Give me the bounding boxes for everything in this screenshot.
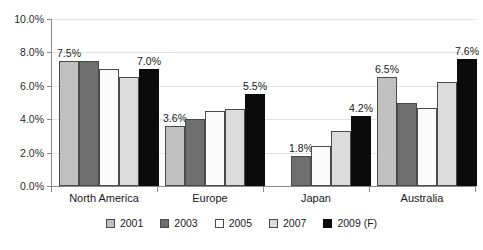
swatch-2001-icon (106, 219, 115, 228)
x-category-label-north-america: North America (51, 192, 157, 205)
bar-value-label: 7.5% (57, 48, 81, 59)
y-tick-label: 0.0% (0, 181, 44, 191)
x-category-label-europe: Europe (157, 192, 263, 205)
bar-australia-2001[interactable]: 6.5% (377, 77, 397, 186)
y-tick-2: 2.0% (0, 148, 44, 158)
y-tick-10: 10.0% (0, 14, 44, 24)
legend: 2001 2003 2005 2007 2009 (F) (0, 218, 483, 229)
bar-japan-2003[interactable]: 1.8% (291, 156, 311, 186)
x-category-label-japan: Japan (263, 192, 369, 205)
bar-europe-2001[interactable]: 3.6% (165, 126, 185, 186)
bar-group-australia: 6.5% 7.6% (377, 19, 483, 186)
bar-group-japan: 1.8% 4.2% (271, 19, 380, 186)
bar-group-europe: 3.6% 5.5% (165, 19, 274, 186)
bar-australia-2005[interactable] (417, 108, 437, 186)
y-tick-label: 8.0% (0, 47, 44, 57)
bar-value-label: 6.5% (375, 64, 399, 75)
bar-europe-2009[interactable]: 5.5% (245, 94, 265, 186)
y-tick-6: 6.0% (0, 81, 44, 91)
legend-item-2007[interactable]: 2007 (269, 218, 306, 229)
bar-north-america-2001[interactable]: 7.5% (59, 61, 79, 186)
bar-north-america-2007[interactable] (119, 77, 139, 186)
y-tick-4: 4.0% (0, 114, 44, 124)
swatch-2003-icon (160, 219, 169, 228)
plot-area: 7.5% 7.0% 3.6% 5.5% (51, 19, 475, 186)
bar-value-label: 1.8% (289, 143, 313, 154)
y-tick-label: 6.0% (0, 81, 44, 91)
bar-north-america-2005[interactable] (99, 69, 119, 186)
bar-australia-2007[interactable] (437, 82, 457, 186)
legend-item-2005[interactable]: 2005 (215, 218, 252, 229)
bar-value-label: 7.6% (455, 46, 479, 57)
bar-value-label: 3.6% (163, 113, 187, 124)
bar-europe-2005[interactable] (205, 111, 225, 186)
bar-group-bars: 1.8% 4.2% (271, 19, 380, 186)
legend-label: 2005 (229, 218, 252, 229)
bar-group-bars: 7.5% 7.0% (59, 19, 168, 186)
legend-label: 2001 (120, 218, 143, 229)
bar-chart: 10.0% 8.0% 6.0% 4.0% 2.0% 0.0% 7.5% (0, 0, 483, 250)
bar-europe-2007[interactable] (225, 109, 245, 186)
bar-value-label: 7.0% (137, 56, 161, 67)
legend-item-2009[interactable]: 2009 (F) (323, 218, 377, 229)
y-tick-label: 4.0% (0, 114, 44, 124)
bar-japan-2005[interactable] (311, 146, 331, 186)
bar-europe-2003[interactable] (185, 119, 205, 186)
swatch-2005-icon (215, 219, 224, 228)
bar-value-label: 5.5% (243, 81, 267, 92)
bar-group-bars: 3.6% 5.5% (165, 19, 274, 186)
bar-north-america-2009[interactable]: 7.0% (139, 69, 159, 186)
legend-item-2003[interactable]: 2003 (160, 218, 197, 229)
legend-label: 2003 (174, 218, 197, 229)
y-tick-label: 10.0% (0, 14, 44, 24)
swatch-2007-icon (269, 219, 278, 228)
swatch-2009-icon (323, 219, 332, 228)
legend-label: 2009 (F) (337, 218, 377, 229)
bar-japan-2009[interactable]: 4.2% (351, 116, 371, 186)
y-tick-8: 8.0% (0, 47, 44, 57)
bar-group-north-america: 7.5% 7.0% (59, 19, 168, 186)
bar-japan-2007[interactable] (331, 131, 351, 186)
bar-north-america-2003[interactable] (79, 61, 99, 186)
bar-australia-2009[interactable]: 7.6% (457, 59, 477, 186)
bar-group-bars: 6.5% 7.6% (377, 19, 483, 186)
bar-australia-2003[interactable] (397, 103, 417, 186)
y-tick-0: 0.0% (0, 181, 44, 191)
legend-item-2001[interactable]: 2001 (106, 218, 143, 229)
legend-label: 2007 (283, 218, 306, 229)
bar-value-label: 4.2% (349, 103, 373, 114)
x-category-tick (475, 186, 476, 192)
x-category-label-australia: Australia (369, 192, 475, 205)
y-tick-label: 2.0% (0, 148, 44, 158)
